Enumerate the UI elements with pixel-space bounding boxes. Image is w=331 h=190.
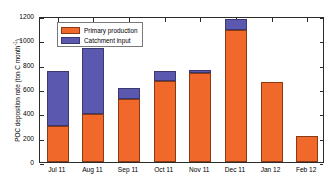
- bar-segment-primary-production[interactable]: [225, 30, 247, 162]
- legend-item[interactable]: Catchment input: [61, 36, 139, 45]
- bar-segment-primary-production[interactable]: [296, 136, 318, 162]
- y-axis-tick-label: 1000: [0, 37, 34, 44]
- legend-item[interactable]: Primary production: [61, 26, 139, 35]
- bar-segment-catchment-input[interactable]: [82, 48, 104, 114]
- chart-legend: Primary productionCatchment input: [57, 22, 143, 47]
- x-axis-tick: [129, 18, 130, 22]
- y-axis-tick-label: 200: [0, 135, 34, 142]
- x-axis-tick-label: Sep 11: [118, 166, 138, 173]
- bar-segment-primary-production[interactable]: [189, 73, 211, 162]
- bar-group[interactable]: [82, 48, 104, 162]
- x-axis-tick: [307, 18, 308, 22]
- y-axis-tick: [320, 140, 324, 141]
- bar-segment-primary-production[interactable]: [261, 82, 283, 162]
- y-axis-tick: [40, 115, 44, 116]
- bar-group[interactable]: [261, 82, 283, 162]
- x-axis-tick: [200, 18, 201, 22]
- bar-segment-catchment-input[interactable]: [118, 88, 140, 98]
- bar-group[interactable]: [47, 71, 69, 162]
- x-axis-tick: [93, 18, 94, 22]
- x-axis-tick: [165, 18, 166, 22]
- y-axis-tick-label: 0: [0, 159, 34, 166]
- y-axis-tick: [40, 91, 44, 92]
- legend-label: Primary production: [84, 26, 138, 35]
- bar-segment-primary-production[interactable]: [118, 99, 140, 162]
- y-axis-tick: [40, 164, 44, 165]
- y-axis-tick: [320, 67, 324, 68]
- x-axis-tick-label: Oct 11: [154, 166, 173, 173]
- y-axis-tick-label: 600: [0, 86, 34, 93]
- y-axis-tick: [320, 164, 324, 165]
- x-axis-tick-label: Dec 11: [225, 166, 245, 173]
- y-axis-tick: [40, 42, 44, 43]
- x-axis-tick-label: Jul 11: [48, 166, 65, 173]
- y-axis-tick: [40, 67, 44, 68]
- plot-area: Primary productionCatchment input: [39, 17, 324, 163]
- y-axis-tick: [320, 115, 324, 116]
- legend-label: Catchment input: [84, 36, 131, 45]
- bar-group[interactable]: [189, 70, 211, 162]
- x-axis-tick: [58, 18, 59, 22]
- x-axis-tick: [272, 18, 273, 22]
- bar-segment-catchment-input[interactable]: [154, 71, 176, 81]
- x-axis-tick-label: Jan 12: [261, 166, 281, 173]
- y-axis-tick: [40, 140, 44, 141]
- bar-segment-catchment-input[interactable]: [189, 70, 211, 73]
- y-axis-tick: [40, 18, 44, 19]
- x-axis-tick-label: Feb 12: [296, 166, 317, 173]
- x-axis-tick-label: Aug 11: [82, 166, 102, 173]
- bar-segment-catchment-input[interactable]: [47, 71, 69, 126]
- legend-swatch: [61, 37, 80, 44]
- y-axis-tick: [320, 18, 324, 19]
- bar-group[interactable]: [154, 71, 176, 162]
- bar-segment-primary-production[interactable]: [47, 126, 69, 162]
- chart-figure: POC deposition rate (ton C month-1) Prim…: [0, 0, 331, 190]
- y-axis-tick-label: 1200: [0, 13, 34, 20]
- y-axis-tick-label: 400: [0, 110, 34, 117]
- legend-swatch: [61, 27, 80, 34]
- bar-segment-catchment-input[interactable]: [225, 19, 247, 30]
- y-axis-tick: [320, 91, 324, 92]
- bar-group[interactable]: [225, 19, 247, 162]
- bar-segment-primary-production[interactable]: [82, 114, 104, 162]
- bar-group[interactable]: [118, 88, 140, 162]
- y-axis-tick-label: 800: [0, 62, 34, 69]
- bar-segment-primary-production[interactable]: [154, 81, 176, 162]
- y-axis-tick: [320, 42, 324, 43]
- y-axis-label-text: POC deposition rate (ton C month: [14, 46, 21, 142]
- bar-group[interactable]: [296, 136, 318, 162]
- x-axis-tick-label: Nov 11: [189, 166, 209, 173]
